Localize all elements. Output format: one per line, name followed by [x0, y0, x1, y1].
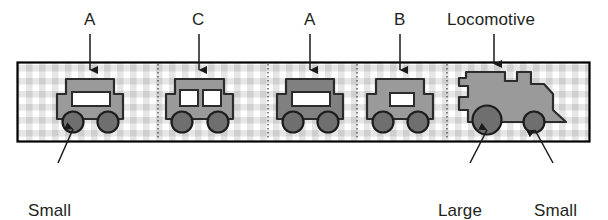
- label-car-c: C: [192, 10, 204, 29]
- car-window: [180, 90, 198, 106]
- wheel-small: [172, 112, 193, 133]
- label-small-wheel-left: Small wheel: [28, 163, 73, 220]
- label-car-b: B: [394, 10, 405, 29]
- car-window: [390, 93, 414, 106]
- car-window: [292, 92, 330, 106]
- wheel-small: [373, 112, 394, 133]
- label-car-a-2: A: [304, 10, 315, 29]
- label-line-1: Small: [534, 201, 579, 220]
- train-diagram: A C A B Locomotive Small wheel Large whe…: [0, 0, 608, 220]
- label-line-1: Small: [28, 201, 73, 220]
- car-window: [72, 92, 110, 106]
- label-car-a-1: A: [84, 10, 95, 29]
- wheel-small: [408, 112, 429, 133]
- wheel-small: [98, 112, 119, 133]
- label-locomotive: Locomotive: [447, 10, 535, 29]
- car-window: [203, 90, 221, 106]
- wheel-small: [318, 112, 339, 133]
- wheel-small: [524, 112, 545, 133]
- wheel-small: [283, 112, 304, 133]
- wheel-small: [208, 112, 229, 133]
- label-large-wheel: Large wheel: [438, 163, 483, 220]
- label-small-wheel-right: Small wheel: [534, 163, 579, 220]
- label-line-1: Large: [438, 201, 483, 220]
